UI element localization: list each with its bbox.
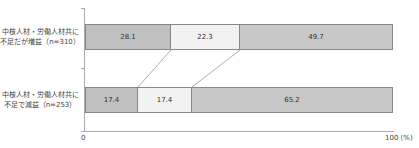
x-tick-label-min: 0	[81, 134, 85, 142]
bar-row-2: 17.4 17.4 65.2	[85, 87, 393, 113]
bar-segment: 22.3	[171, 24, 240, 50]
bar-segment: 17.4	[138, 87, 192, 113]
bar-segment: 28.1	[85, 24, 171, 50]
bar-segment: 17.4	[85, 87, 138, 113]
x-tick-label-max: 100 (%)	[385, 134, 413, 142]
stacked-bar-chart: 中核人材・労働人材共に 不足だが増益（n=310） 中核人材・労働人材共に 不足…	[0, 0, 419, 148]
connector-lines	[0, 0, 419, 148]
bar-row-1: 28.1 22.3 49.7	[85, 24, 393, 50]
bar-segment: 49.7	[240, 24, 393, 50]
bar-segment: 65.2	[192, 87, 393, 113]
